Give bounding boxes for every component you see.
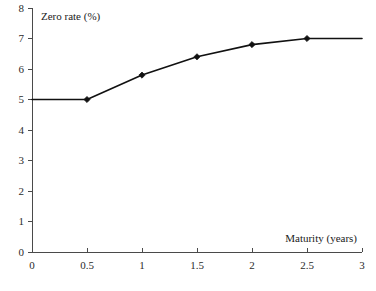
x-axis-label: Maturity (years) (285, 232, 357, 245)
y-axis-tick-label: 1 (19, 215, 25, 227)
x-axis-tick-label: 2 (249, 259, 255, 271)
y-axis-tick-label: 6 (19, 63, 25, 75)
x-axis-tick-label: 0 (29, 259, 35, 271)
x-axis-tick-label: 1 (139, 259, 145, 271)
x-axis-tick-label: 0.5 (80, 259, 94, 271)
y-axis-tick-group: 012345678 (19, 2, 33, 258)
data-point-marker (139, 72, 145, 78)
data-point-marker (194, 54, 200, 60)
y-axis-tick-label: 4 (19, 124, 25, 136)
y-axis-tick-label: 0 (19, 246, 25, 258)
zero-rate-chart: 012345678 00.511.522.53 Zero rate (%) Ma… (0, 0, 376, 291)
y-axis-tick-label: 8 (19, 2, 25, 14)
data-point-marker (84, 96, 90, 102)
x-axis-tick-label: 3 (359, 259, 365, 271)
y-axis-tick-label: 2 (19, 185, 25, 197)
zero-rate-curve (32, 39, 362, 100)
data-point-marker-group (84, 35, 310, 102)
y-axis-tick-label: 3 (19, 154, 25, 166)
y-axis-tick-label: 5 (19, 93, 25, 105)
y-axis-tick-label: 7 (19, 32, 25, 44)
data-point-marker (304, 35, 310, 41)
x-axis-tick-group: 00.511.522.53 (29, 248, 365, 271)
data-point-marker (249, 42, 255, 48)
x-axis-tick-label: 2.5 (300, 259, 314, 271)
chart-canvas: 012345678 00.511.522.53 Zero rate (%) Ma… (0, 0, 376, 291)
x-axis-tick-label: 1.5 (190, 259, 204, 271)
y-axis-label: Zero rate (%) (41, 10, 101, 23)
